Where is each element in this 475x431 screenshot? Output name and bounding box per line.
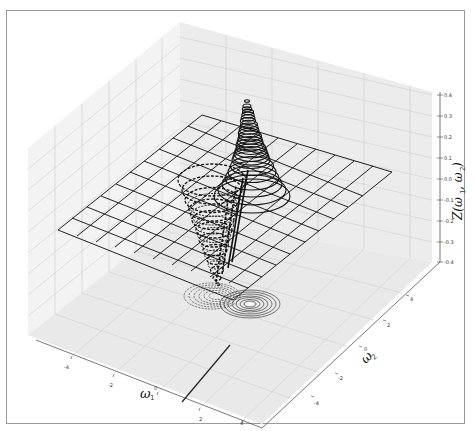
omega1-tick-label: -4 (64, 364, 69, 370)
omega2-tick-label: -4 (314, 400, 319, 406)
svg-text:1: 1 (150, 394, 154, 402)
omega1-tick-label: -2 (108, 382, 113, 388)
z-axis-label: Z(ω 1 , ω 2 ) (451, 162, 467, 221)
omega1-axis-label: ω 1 (140, 386, 154, 402)
svg-text:Z(ω: Z(ω (451, 197, 465, 221)
svg-text:): ) (451, 162, 465, 168)
omega2-tick-label: 2 (387, 322, 390, 328)
plot-3d: -4 -2 0 2 4 ω 1 -4 -2 0 2 4 ω 2 (0, 0, 475, 431)
omega1-tick-label: 4 (240, 420, 243, 426)
z-tick-label: -0.3 (444, 239, 454, 245)
omega2-axis-label: ω 2 (357, 346, 379, 368)
z-tick-label: 0.1 (444, 155, 452, 161)
svg-text:, ω: , ω (451, 172, 465, 190)
z-tick-label: -0.4 (444, 259, 454, 265)
z-tick-label: 0.3 (444, 113, 452, 119)
omega2-tick-label: 4 (410, 296, 413, 302)
omega1-tick-label: 0 (154, 385, 157, 391)
omega1-tick-label: 2 (199, 416, 202, 422)
omega2-tick-label: -2 (338, 375, 343, 381)
z-tick-label: 0.2 (444, 134, 452, 140)
z-tick-label: 0.4 (444, 92, 452, 98)
